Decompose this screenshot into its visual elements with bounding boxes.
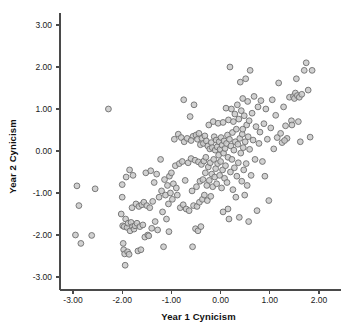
data-point bbox=[243, 76, 249, 82]
data-point bbox=[241, 167, 247, 173]
data-point bbox=[138, 247, 144, 253]
data-point bbox=[276, 80, 282, 86]
data-point bbox=[246, 118, 252, 124]
data-point bbox=[89, 233, 95, 239]
y-tick-label: -1.00 bbox=[18, 188, 52, 198]
data-point bbox=[119, 182, 125, 188]
data-point bbox=[238, 150, 244, 156]
data-point bbox=[166, 229, 172, 235]
data-point bbox=[236, 116, 242, 122]
data-point bbox=[273, 112, 279, 118]
data-point bbox=[264, 136, 270, 142]
data-point bbox=[122, 262, 128, 268]
data-point bbox=[282, 138, 288, 144]
data-point bbox=[119, 194, 125, 200]
data-point bbox=[271, 146, 277, 152]
data-point bbox=[158, 157, 164, 163]
data-point bbox=[307, 134, 313, 140]
data-point bbox=[179, 159, 185, 165]
data-point bbox=[278, 130, 284, 136]
data-point bbox=[188, 138, 194, 144]
scatter-plot-figure: 3.002.001.000.00-1.00-2.00-3.00-3.00-2.0… bbox=[0, 0, 341, 332]
y-tick-label: 2.00 bbox=[18, 62, 52, 72]
data-point bbox=[256, 141, 262, 147]
data-point bbox=[281, 104, 287, 110]
data-point bbox=[73, 232, 79, 238]
data-point bbox=[230, 187, 236, 193]
data-point bbox=[78, 241, 84, 247]
data-point bbox=[243, 161, 249, 167]
data-point bbox=[165, 183, 171, 189]
data-point bbox=[263, 106, 269, 112]
y-tick-label: -3.00 bbox=[18, 272, 52, 282]
data-point bbox=[252, 157, 258, 163]
x-tick-label: -1.00 bbox=[151, 295, 191, 305]
data-point bbox=[303, 60, 309, 66]
data-point bbox=[299, 91, 305, 97]
data-point bbox=[234, 173, 240, 179]
data-point bbox=[246, 219, 252, 225]
data-point bbox=[126, 251, 132, 257]
data-point bbox=[148, 168, 154, 174]
data-point bbox=[171, 136, 177, 142]
data-point bbox=[218, 159, 224, 165]
x-tick-label: -3.00 bbox=[53, 295, 93, 305]
data-point bbox=[248, 172, 254, 178]
data-point bbox=[198, 224, 204, 230]
data-point bbox=[254, 208, 260, 214]
data-point bbox=[231, 147, 237, 153]
data-point bbox=[235, 141, 241, 147]
data-point bbox=[154, 171, 160, 177]
data-point bbox=[186, 208, 192, 214]
y-axis-title: Year 2 Cynicism bbox=[7, 97, 18, 217]
data-point bbox=[169, 196, 175, 202]
data-point bbox=[152, 219, 158, 225]
data-point bbox=[269, 97, 275, 103]
data-point bbox=[220, 209, 226, 215]
data-point bbox=[190, 244, 196, 250]
data-point bbox=[224, 180, 230, 186]
x-tick-label: 2.00 bbox=[299, 295, 339, 305]
data-point bbox=[201, 192, 207, 198]
data-point bbox=[223, 163, 229, 169]
data-point bbox=[151, 180, 157, 186]
data-point bbox=[236, 214, 242, 220]
data-point bbox=[140, 222, 146, 228]
data-point bbox=[127, 167, 133, 173]
data-point bbox=[247, 146, 253, 152]
data-point bbox=[181, 97, 187, 103]
data-point bbox=[245, 99, 251, 105]
data-point bbox=[240, 145, 246, 151]
data-point bbox=[191, 102, 197, 108]
data-point bbox=[227, 136, 233, 142]
x-tick-label: 0.00 bbox=[201, 295, 241, 305]
data-point bbox=[253, 124, 259, 130]
data-point bbox=[241, 113, 247, 119]
data-point bbox=[214, 181, 220, 187]
data-point bbox=[261, 121, 267, 127]
data-points bbox=[73, 60, 315, 268]
data-point bbox=[255, 104, 261, 110]
data-point bbox=[262, 173, 268, 179]
data-point bbox=[223, 105, 229, 111]
data-point bbox=[237, 79, 243, 85]
data-point bbox=[230, 119, 236, 125]
y-tick-label: -2.00 bbox=[18, 230, 52, 240]
data-point bbox=[130, 172, 136, 178]
x-axis-title: Year 1 Cynicism bbox=[0, 311, 341, 322]
data-point bbox=[74, 183, 80, 189]
data-point bbox=[250, 137, 256, 143]
data-point bbox=[123, 174, 129, 180]
data-point bbox=[227, 64, 233, 70]
data-point bbox=[234, 102, 240, 108]
data-point bbox=[161, 244, 167, 250]
data-point bbox=[220, 120, 226, 126]
data-point bbox=[92, 186, 98, 192]
data-point bbox=[251, 94, 257, 100]
data-point bbox=[297, 139, 303, 145]
data-point bbox=[301, 67, 307, 73]
data-point bbox=[169, 170, 175, 176]
data-point bbox=[233, 126, 239, 132]
data-point bbox=[173, 185, 179, 191]
axes-lines bbox=[60, 13, 341, 290]
